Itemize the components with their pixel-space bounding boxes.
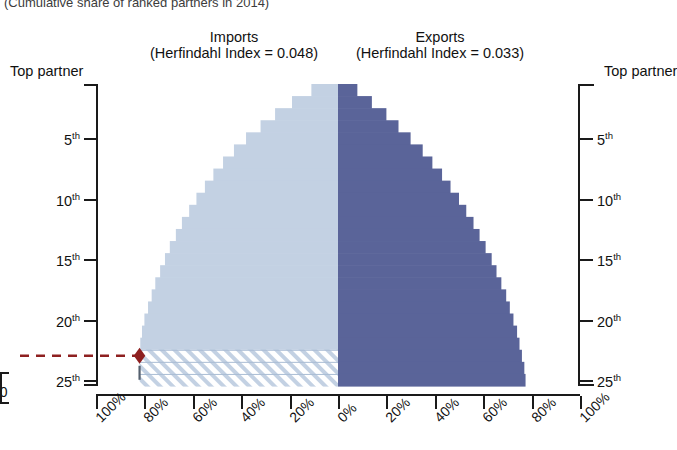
y-axis-left-tick	[84, 199, 97, 201]
y-axis-right-tick-label: 10th	[597, 190, 657, 208]
imports-bar	[152, 289, 338, 302]
exports-bar	[338, 338, 520, 351]
y-axis-right-tick	[580, 199, 593, 201]
exports-bar	[338, 301, 510, 314]
imports-bar	[148, 301, 338, 314]
imports-bar	[182, 217, 338, 230]
imports-bar	[189, 205, 338, 218]
y-axis-right-tick	[580, 138, 593, 140]
y-axis-left-tick-label: 25th	[30, 371, 80, 389]
exports-bar	[338, 217, 474, 230]
imports-bar-edge	[140, 374, 338, 375]
exports-bar	[338, 350, 522, 363]
exports-bar	[338, 314, 513, 327]
imports-bar	[144, 314, 338, 327]
exports-bar	[338, 277, 501, 290]
y-axis-left-tick-label: 20th	[30, 311, 80, 329]
exports-bar	[338, 229, 480, 242]
imports-bar	[234, 144, 338, 157]
imports-bar	[246, 132, 338, 145]
imports-bar	[140, 338, 338, 351]
y-axis-left-tick-top	[84, 84, 97, 86]
y-axis-right-tick	[580, 259, 593, 261]
exports-bar	[338, 156, 432, 169]
imports-bar	[196, 193, 338, 206]
exports-bar	[338, 84, 357, 97]
imports-bar	[311, 84, 338, 97]
exports-bar	[338, 132, 411, 145]
exports-bar	[338, 362, 524, 375]
y-axis-left-tick-label: 15th	[30, 250, 80, 268]
y-axis-right-tick-label: 25th	[597, 371, 657, 389]
y-axis-right-tick-label: 5th	[597, 129, 657, 147]
exports-bar	[338, 253, 492, 266]
y-axis-right-tick	[580, 320, 593, 322]
imports-bar	[261, 120, 338, 133]
y-axis-left-tick-label: 10th	[30, 190, 80, 208]
exports-bar	[338, 120, 399, 133]
imports-bar	[165, 253, 338, 266]
exports-bar	[338, 374, 526, 387]
exports-bar	[338, 169, 442, 182]
y-axis-right-tick-label: 15th	[597, 250, 657, 268]
y-axis-left-cap-bottom	[84, 384, 98, 386]
y-axis-right-tick	[580, 380, 593, 382]
imports-bar	[292, 96, 338, 109]
exports-bar	[338, 181, 451, 194]
exports-bar	[338, 241, 486, 254]
exports-bars	[338, 84, 526, 387]
imports-bar-edge	[140, 350, 338, 351]
y-axis-left-tick-label: 5th	[30, 129, 80, 147]
y-axis-left-line	[96, 84, 98, 386]
y-axis-left-tick	[84, 259, 97, 261]
imports-bars	[140, 84, 338, 387]
imports-bar	[140, 362, 338, 375]
imports-bar	[140, 374, 338, 387]
y-axis-left-tick	[84, 320, 97, 322]
imports-bar	[140, 350, 338, 363]
y-axis-right-tick-top	[580, 84, 593, 86]
exports-bar	[338, 108, 386, 121]
exports-bar	[338, 193, 459, 206]
imports-bar	[160, 265, 338, 278]
imports-bar-edge	[140, 362, 338, 363]
y-axis-left-tick	[84, 380, 97, 382]
imports-bar	[205, 181, 338, 194]
imports-bar	[142, 326, 338, 339]
exports-bar	[338, 326, 517, 339]
y-axis-right-tick-label: 20th	[597, 311, 657, 329]
chart-plot	[0, 0, 677, 450]
exports-bar	[338, 96, 372, 109]
exports-bar	[338, 289, 506, 302]
y-axis-left-tick	[84, 138, 97, 140]
y-axis-right-line	[578, 84, 580, 386]
exports-bar	[338, 144, 423, 157]
imports-bar	[155, 277, 338, 290]
exports-bar	[338, 265, 497, 278]
imports-bar	[275, 108, 338, 121]
imports-bar	[213, 169, 338, 182]
imports-bar	[170, 241, 338, 254]
exports-bar	[338, 205, 466, 218]
y-axis-right-cap-bottom	[580, 384, 594, 386]
imports-bar	[223, 156, 338, 169]
imports-bar	[176, 229, 338, 242]
chart-root: (Cumulative share of ranked partners in …	[0, 0, 677, 450]
